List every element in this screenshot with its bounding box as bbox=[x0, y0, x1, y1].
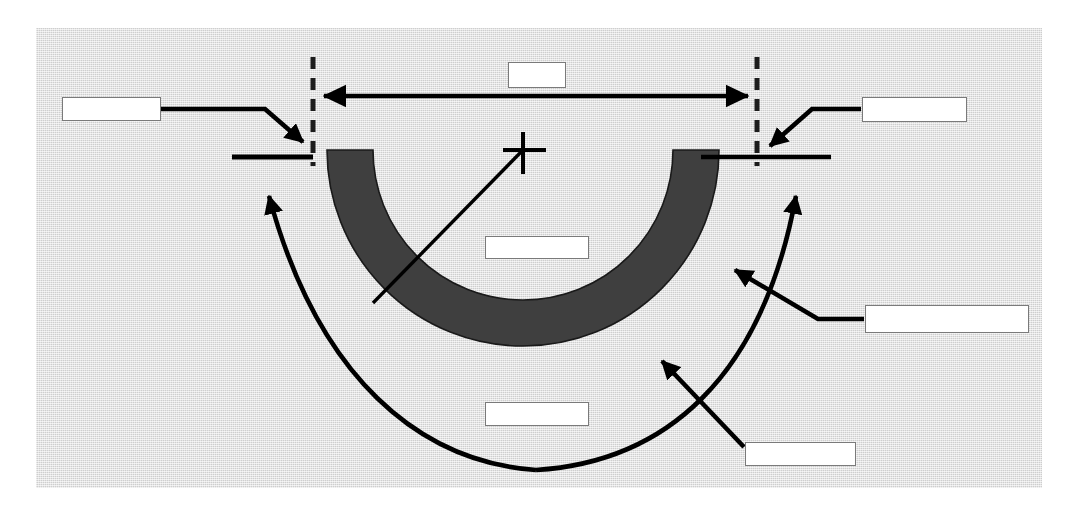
span-dimension-box[interactable] bbox=[508, 62, 566, 88]
rise-label-box[interactable] bbox=[485, 402, 589, 426]
inner-ring-label-box[interactable] bbox=[745, 442, 856, 466]
outer-ring-label-box[interactable] bbox=[865, 305, 1029, 333]
radius-label-box[interactable] bbox=[485, 236, 589, 259]
left-springing-box[interactable] bbox=[62, 97, 161, 121]
diagram-root bbox=[0, 0, 1078, 519]
right-springing-box[interactable] bbox=[862, 97, 967, 122]
